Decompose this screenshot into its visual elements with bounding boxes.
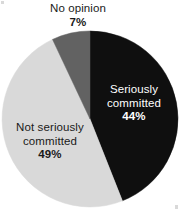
slice-label-not-seriously-committed-value: 49% [4,148,96,162]
slice-label-seriously-committed-text-line1: Seriously [96,83,172,97]
pie-chart-figure: No opinion 7% Seriously committed 44% No… [0,0,179,213]
slice-label-not-seriously-committed-text-line1: Not seriously [4,121,96,135]
slice-label-not-seriously-committed: Not seriously committed 49% [4,121,96,162]
slice-label-seriously-committed-text-line2: committed [96,97,172,111]
scan-artifact [1,1,4,4]
slice-label-no-opinion: No opinion 7% [26,2,130,29]
slice-label-no-opinion-text: No opinion [26,2,130,16]
slice-label-seriously-committed-value: 44% [96,110,172,124]
slice-label-no-opinion-value: 7% [26,16,130,30]
scan-artifact [175,205,178,209]
slice-label-seriously-committed: Seriously committed 44% [96,83,172,124]
slice-label-not-seriously-committed-text-line2: committed [4,135,96,149]
